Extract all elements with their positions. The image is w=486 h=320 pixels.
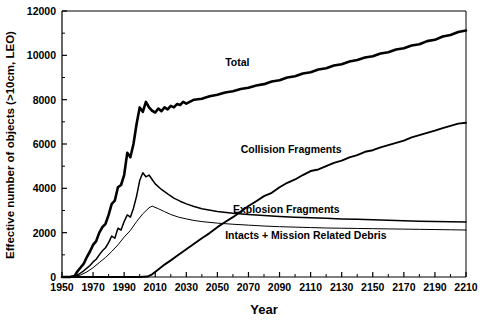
x-tick-label: 1970 [81,281,105,293]
x-tick-label: 2170 [392,281,416,293]
y-tick-label: 8000 [33,94,57,106]
series-label-collision-fragments: Collision Fragments [241,143,342,155]
y-tick-label: 6000 [33,138,57,150]
series-labels-group: TotalCollision FragmentsExplosion Fragme… [225,56,387,241]
x-tick-label: 2010 [144,281,168,293]
x-axis-title: Year [250,302,277,317]
x-tick-label: 2150 [361,281,385,293]
x-tick-label: 2070 [237,281,261,293]
x-tick-label: 2190 [423,281,447,293]
x-tick-label: 2050 [206,281,230,293]
x-tick-label: 2110 [299,281,322,293]
x-tick-label: 1990 [112,281,136,293]
series-label-intacts-mission-related-debris: Intacts + Mission Related Debris [225,229,387,241]
y-tick-label: 10000 [27,49,56,61]
y-tick-label: 4000 [33,182,57,194]
x-tick-label: 2210 [454,281,478,293]
x-tick-label: 1950 [50,281,74,293]
y-axis-title: Effective number of objects (>10cm, LEO) [4,31,16,259]
chart-figure: 0200040006000800010000120001950197019902… [0,0,486,320]
chart-plot-area: 0200040006000800010000120001950197019902… [0,0,486,320]
series-line-intacts-mission-related-debris [62,206,466,277]
series-label-explosion-fragments: Explosion Fragments [233,203,340,215]
x-tick-label: 2130 [330,281,354,293]
y-tick-label: 12000 [27,5,56,17]
series-label-total: Total [225,56,249,68]
x-tick-label: 2030 [175,281,199,293]
x-tick-label: 2090 [268,281,292,293]
y-tick-label: 2000 [33,227,57,239]
series-line-explosion-fragments [62,173,466,277]
